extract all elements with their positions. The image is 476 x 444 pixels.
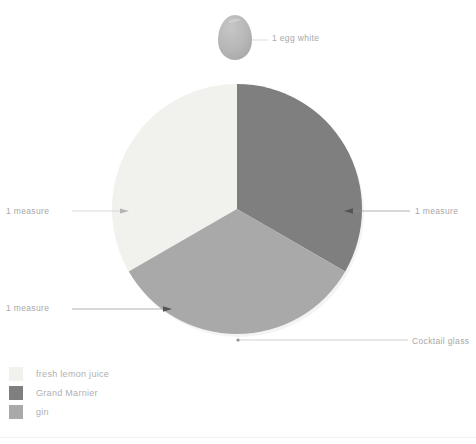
legend: fresh lemon juice Grand Marnier gin [9,365,249,422]
legend-item-grand-marnier[interactable]: Grand Marnier [9,384,249,402]
legend-swatch-fresh-lemon-juice [9,367,23,381]
annotation-cocktail-glass: Cocktail glass [412,336,469,347]
legend-label-fresh-lemon-juice: fresh lemon juice [36,369,109,379]
legend-swatch-gin [9,405,23,419]
legend-label-grand-marnier: Grand Marnier [36,388,98,398]
leader-dot-cocktail-glass [236,338,239,341]
legend-label-gin: gin [36,407,49,417]
annotation-measure-fresh-lemon-juice: 1 measure [6,206,49,217]
legend-swatch-grand-marnier [9,386,23,400]
legend-item-fresh-lemon-juice[interactable]: fresh lemon juice [9,365,249,383]
chart-canvas: 1 egg white 1 measure 1 measure 1 measur… [0,0,476,444]
footer-divider [0,437,476,438]
annotation-measure-gin: 1 measure [6,303,49,314]
annotation-measure-grand-marnier: 1 measure [415,206,458,217]
legend-item-gin[interactable]: gin [9,403,249,421]
annotation-egg-white: 1 egg white [272,33,319,44]
